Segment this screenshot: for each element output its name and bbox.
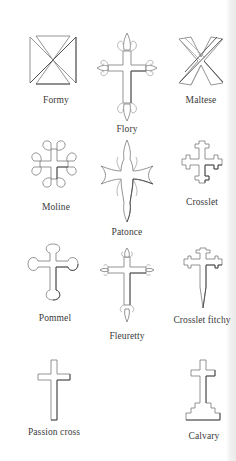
cross-label: Crosslet bbox=[186, 197, 218, 207]
cross-maltese-icon bbox=[177, 35, 225, 87]
cross-patonce-figure bbox=[99, 139, 155, 223]
cross-fleuretty-figure bbox=[99, 247, 155, 323]
cross-label: Pommel bbox=[39, 313, 71, 323]
cross-moline-icon bbox=[30, 139, 78, 189]
cross-crosslet-fitchy-figure bbox=[183, 247, 223, 309]
cross-label: Patonce bbox=[112, 227, 143, 237]
cross-label: Moline bbox=[42, 202, 70, 212]
cross-calvary-icon bbox=[185, 359, 221, 421]
cross-label: Crosslet fitchy bbox=[173, 315, 230, 325]
cross-maltese-figure bbox=[177, 35, 225, 87]
cross-formy-figure bbox=[28, 34, 78, 86]
cross-flory-figure bbox=[96, 31, 158, 123]
cross-passion-figure bbox=[37, 359, 71, 421]
cross-label: Flory bbox=[116, 124, 137, 134]
page-gutter-shadow bbox=[226, 0, 236, 461]
cross-crosslet-figure bbox=[181, 140, 223, 184]
cross-label: Maltese bbox=[186, 95, 217, 105]
cross-crosslet-icon bbox=[181, 140, 223, 184]
cross-flory-icon bbox=[96, 31, 158, 123]
cross-patonce-icon bbox=[99, 139, 155, 223]
cross-label: Fleuretty bbox=[109, 331, 144, 341]
cross-moline-figure bbox=[30, 139, 78, 189]
cross-formy-icon bbox=[28, 34, 78, 86]
cross-pommel-icon bbox=[27, 243, 79, 301]
cross-calvary-figure bbox=[185, 359, 221, 421]
cross-pommel-figure bbox=[27, 243, 79, 301]
cross-label: Formy bbox=[43, 95, 69, 105]
cross-passion-icon bbox=[37, 359, 71, 421]
cross-label: Calvary bbox=[189, 431, 220, 441]
cross-label: Passion cross bbox=[28, 427, 80, 437]
cross-crosslet-fitchy-icon bbox=[183, 247, 223, 309]
cross-fleuretty-icon bbox=[99, 247, 155, 323]
